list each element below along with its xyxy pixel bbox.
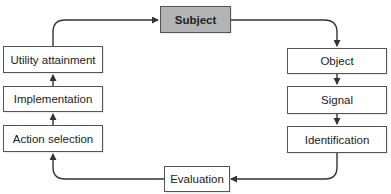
node-subject: Subject: [160, 6, 231, 33]
node-signal: Signal: [287, 86, 387, 114]
node-utility-attainment: Utility attainment: [3, 46, 103, 73]
node-implementation: Implementation: [3, 86, 103, 112]
edge-utility-to-subject: [53, 20, 158, 46]
edge-identification-to-evaluation: [231, 153, 337, 179]
node-action-selection: Action selection: [3, 125, 103, 152]
edge-subject-to-object: [231, 20, 337, 46]
node-evaluation: Evaluation: [164, 166, 230, 192]
edge-evaluation-to-action: [53, 154, 164, 179]
node-identification: Identification: [287, 126, 387, 153]
node-object: Object: [287, 48, 387, 74]
